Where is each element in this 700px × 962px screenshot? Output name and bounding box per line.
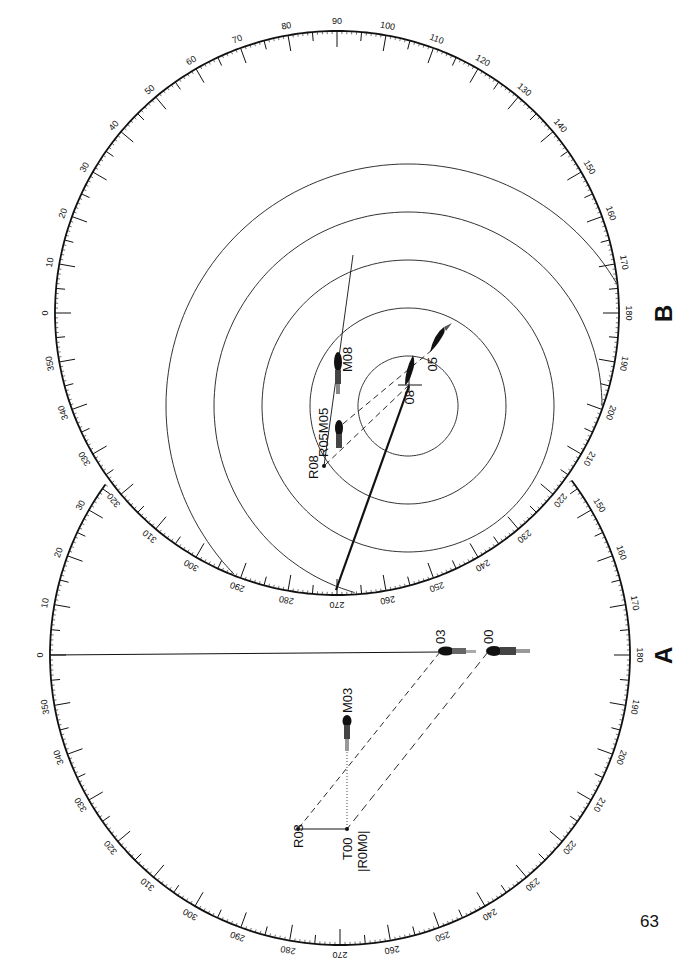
svg-text:150: 150 [581,158,597,176]
svg-text:340: 340 [56,404,71,422]
svg-text:310: 310 [138,876,156,893]
svg-text:100: 100 [379,20,396,32]
echo-05 [430,323,452,352]
heading-line-a [50,652,440,655]
label-r03: R03 [291,824,306,848]
svg-text:290: 290 [228,580,246,595]
svg-text:150: 150 [591,496,607,514]
svg-text:290: 290 [229,929,247,944]
label-08: 08 [402,390,417,404]
label-00: 00 [481,630,496,644]
plot-a: 03 00 M03 R03 T00 |R0M0| [50,630,530,872]
label-m03: M03 [340,688,355,713]
svg-text:250: 250 [428,580,446,595]
label-03: 03 [433,630,448,644]
svg-text:240: 240 [474,557,492,573]
point-t00 [345,827,349,831]
svg-text:300: 300 [181,906,199,922]
label-r05m05: R05M05 [316,408,331,457]
svg-text:210: 210 [591,796,607,814]
svg-text:330: 330 [76,450,92,468]
svg-text:250: 250 [434,929,452,944]
svg-text:180: 180 [624,305,634,320]
svg-text:10: 10 [44,257,56,269]
svg-text:190: 190 [618,355,630,372]
svg-text:300: 300 [182,557,200,573]
echo-00 [486,646,530,656]
svg-text:0: 0 [35,652,45,657]
svg-text:200: 200 [614,749,629,767]
svg-text:110: 110 [428,32,445,46]
panel-label-b: B [650,305,677,322]
svg-text:230: 230 [515,528,533,545]
svg-text:240: 240 [481,906,499,922]
svg-text:180: 180 [635,647,645,662]
range-rings-b [166,164,618,593]
svg-text:190: 190 [629,699,641,716]
svg-text:270: 270 [332,950,347,960]
bearing-dial-b: 0102030405060708090100110120130140150160… [40,16,633,609]
echo-r05m05 [335,420,343,448]
svg-text:340: 340 [51,749,66,767]
point-r08 [322,464,326,468]
svg-text:220: 220 [561,839,578,857]
svg-text:70: 70 [231,33,244,46]
svg-text:280: 280 [280,944,297,956]
echo-08 [405,355,414,385]
svg-text:20: 20 [57,207,70,220]
svg-text:80: 80 [281,20,293,32]
svg-text:160: 160 [614,544,629,562]
svg-text:90: 90 [332,16,342,26]
svg-text:320: 320 [105,491,122,509]
svg-text:10: 10 [39,597,51,609]
page-number: 63 [640,912,659,932]
svg-text:120: 120 [474,52,492,68]
svg-text:270: 270 [329,600,344,610]
svg-text:30: 30 [78,160,92,174]
svg-text:170: 170 [618,254,630,271]
svg-text:20: 20 [52,546,65,559]
svg-text:40: 40 [107,118,121,132]
svg-text:310: 310 [141,528,159,545]
svg-text:30: 30 [74,498,88,512]
svg-text:50: 50 [142,83,156,97]
svg-text:330: 330 [72,796,88,814]
dashed-vector-00 [347,652,488,829]
svg-text:170: 170 [629,595,641,612]
label-r0m0: |R0M0| [355,831,370,872]
panel-label-a: A [650,647,677,664]
svg-text:280: 280 [278,594,295,606]
svg-text:130: 130 [515,81,533,98]
heading-line-b [336,386,409,590]
bearing-dial-a: 0102030150160170180190200210220230240250… [35,480,644,959]
echo-m03 [343,715,352,751]
dashed-vector-03 [298,652,440,829]
svg-text:200: 200 [604,404,619,422]
label-t00: T00 [340,838,355,860]
svg-text:260: 260 [384,944,401,956]
svg-text:320: 320 [102,839,119,857]
svg-text:140: 140 [552,117,569,135]
label-r08: R08 [306,455,321,479]
echo-03 [438,647,476,656]
plot-b: 05 08 M08 R05M05 R08 [306,255,452,590]
svg-text:60: 60 [184,54,198,68]
svg-text:350: 350 [44,355,56,372]
svg-text:260: 260 [379,594,396,606]
svg-text:350: 350 [39,699,51,716]
svg-text:210: 210 [581,450,597,468]
svg-text:0: 0 [40,310,50,315]
radar-plot-figure: 0102030150160170180190200210220230240250… [0,0,700,962]
label-m08: M08 [340,347,355,372]
svg-text:230: 230 [524,876,542,893]
svg-text:220: 220 [552,491,569,509]
svg-text:160: 160 [604,204,619,222]
label-05: 05 [425,357,440,371]
